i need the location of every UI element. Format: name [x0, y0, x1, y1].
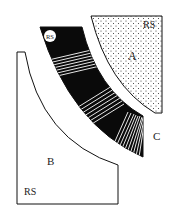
region-b-rs-label: RS [24, 186, 36, 197]
region-a-label: A [128, 49, 137, 63]
diagram-canvas: RS RS A B RS C [0, 0, 195, 218]
region-a-rs-label: RS [143, 19, 155, 30]
band-rs-label: RS [46, 33, 54, 40]
region-b-label: B [47, 155, 54, 167]
region-c-label: C [153, 130, 160, 142]
